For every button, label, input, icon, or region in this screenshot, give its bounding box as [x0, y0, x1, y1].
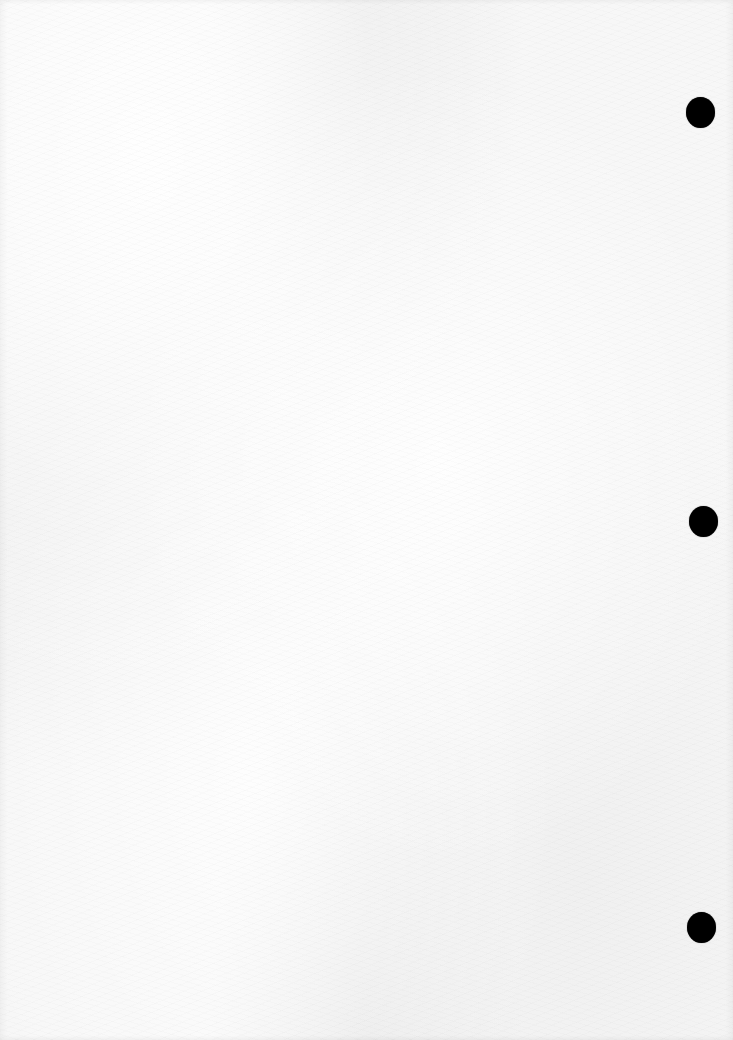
punch-hole-bottom: punch hole bottom [687, 912, 716, 943]
page-text [0, 0, 1, 1]
paper-texture [0, 0, 733, 1040]
scanned-page: punch hole top punch hole middle punch h… [0, 0, 733, 1040]
punch-hole-top: punch hole top [686, 97, 715, 128]
punch-hole-middle: punch hole middle [689, 506, 718, 537]
